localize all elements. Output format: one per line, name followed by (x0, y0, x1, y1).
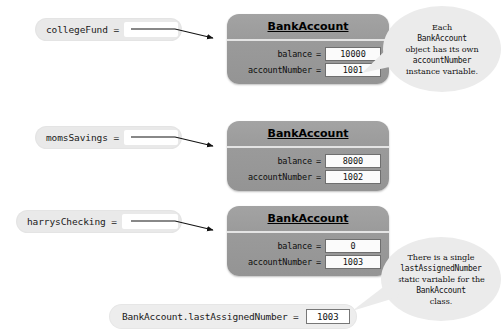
field-value-accountNumber[interactable]: 1003 (325, 255, 381, 269)
field-row-accountNumber: accountNumber = 1001 (233, 63, 381, 77)
field-value-balance[interactable]: 10000 (325, 47, 381, 61)
object-fields: balance = 10000 accountNumber = 1001 (227, 41, 389, 84)
callout-line: BankAccount (416, 285, 466, 296)
variable-label: harrysChecking = (27, 216, 117, 227)
object-fields: balance = 0 accountNumber = 1003 (227, 233, 389, 276)
callout-line: lastAssignedNumber (400, 263, 481, 274)
reference-slot (124, 22, 178, 37)
field-name-accountNumber: accountNumber (248, 257, 312, 267)
field-name-balance: balance (277, 241, 311, 251)
variable-pill-harrysChecking[interactable]: harrysChecking = (17, 211, 181, 232)
reference-slot (122, 214, 178, 229)
equals-sign: = (316, 172, 321, 182)
static-variable-value[interactable]: 1003 (306, 309, 350, 324)
callout-static-variable-note: There is a single lastAssignedNumber sta… (381, 237, 501, 321)
variable-pill-collegeFund[interactable]: collegeFund = (36, 19, 181, 40)
field-name-balance: balance (277, 156, 311, 166)
field-value-accountNumber[interactable]: 1001 (325, 63, 381, 77)
equals-sign: = (316, 241, 321, 251)
object-diagram: collegeFund = momsSavings = harrysChecki… (0, 0, 502, 334)
static-variable-pill[interactable]: BankAccount.lastAssignedNumber = 1003 (110, 305, 356, 328)
field-row-accountNumber: accountNumber = 1003 (233, 255, 381, 269)
equals-sign: = (316, 49, 321, 59)
reference-slot (124, 130, 178, 145)
equals-sign: = (316, 156, 321, 166)
callout-instance-variable-note: Each BankAccount object has its own acco… (383, 6, 501, 92)
object-class-title: BankAccount (227, 206, 389, 233)
object-fields: balance = 8000 accountNumber = 1002 (227, 148, 389, 191)
callout-line: Each (432, 22, 452, 33)
field-row-balance: balance = 8000 (233, 154, 381, 168)
field-name-balance: balance (277, 49, 311, 59)
object-box-momsSavings[interactable]: BankAccount balance = 8000 accountNumber… (227, 121, 389, 191)
object-box-collegeFund[interactable]: BankAccount balance = 10000 accountNumbe… (227, 14, 389, 84)
callout-line: BankAccount (417, 33, 467, 44)
field-row-balance: balance = 0 (233, 239, 381, 253)
variable-label: collegeFund = (46, 24, 119, 35)
field-value-balance[interactable]: 8000 (325, 154, 381, 168)
callout-line: class. (430, 296, 453, 307)
variable-label: momsSavings = (46, 132, 119, 143)
callout-line: accountNumber (413, 55, 472, 66)
object-class-title: BankAccount (227, 14, 389, 41)
equals-sign: = (316, 65, 321, 75)
field-value-accountNumber[interactable]: 1002 (325, 170, 381, 184)
callout-line: object has its own (405, 44, 478, 55)
callout-line: instance variable. (406, 66, 478, 77)
static-variable-label: BankAccount.lastAssignedNumber = (122, 311, 299, 322)
field-value-balance[interactable]: 0 (325, 239, 381, 253)
field-name-accountNumber: accountNumber (248, 172, 312, 182)
variable-pill-momsSavings[interactable]: momsSavings = (36, 127, 181, 148)
callout-line: static variable for the (397, 274, 485, 285)
field-row-accountNumber: accountNumber = 1002 (233, 170, 381, 184)
callout-line: There is a single (407, 252, 474, 263)
object-box-harrysChecking[interactable]: BankAccount balance = 0 accountNumber = … (227, 206, 389, 276)
field-row-balance: balance = 10000 (233, 47, 381, 61)
field-name-accountNumber: accountNumber (248, 65, 312, 75)
object-class-title: BankAccount (227, 121, 389, 148)
equals-sign: = (316, 257, 321, 267)
